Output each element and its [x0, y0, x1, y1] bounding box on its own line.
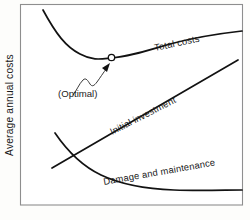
y-axis-title: Average annual costs — [4, 54, 15, 156]
cost-optimization-chart: Total costs Initial investment Damage an… — [0, 0, 250, 220]
optimal-annotation-label: (Optimal) — [58, 88, 97, 99]
chart-screenshot: Total costs Initial investment Damage an… — [0, 0, 250, 220]
optimal-point-marker — [108, 54, 114, 60]
